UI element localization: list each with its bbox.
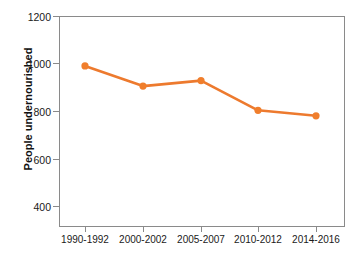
data-series-layer xyxy=(0,0,355,258)
data-point xyxy=(312,112,319,119)
data-point xyxy=(197,77,204,84)
series-line xyxy=(85,66,316,116)
data-point xyxy=(139,83,146,90)
data-point xyxy=(254,107,261,114)
line-chart: People undernourished 1200 1000 800 600 … xyxy=(0,0,355,258)
series-markers xyxy=(81,62,319,119)
data-point xyxy=(81,62,88,69)
